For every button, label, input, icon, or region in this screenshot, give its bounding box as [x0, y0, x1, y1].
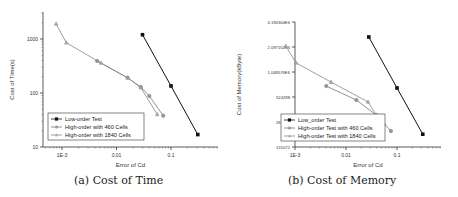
x-tick-label: 1E-3: [57, 152, 68, 158]
y-tick-label: 100: [30, 90, 39, 96]
series-triangle: [284, 44, 386, 125]
x-tick-label: 0.01: [112, 152, 122, 158]
legend-entry: Low_order Test: [298, 117, 337, 123]
x-axis-label: Error of Cd: [116, 162, 145, 168]
legend-entry: High-order with 460 Cells: [65, 124, 128, 130]
series-circle: [95, 59, 165, 117]
y-axis-label: Cost of Memory(kByte): [236, 54, 242, 115]
x-tick-label: 0.01: [341, 152, 351, 158]
caption-time: (a) Cost of Time: [74, 174, 163, 187]
y-tick-label: 131072: [276, 145, 291, 150]
legend: Low-order TestHigh-order with 460 CellsH…: [48, 113, 144, 140]
time-chart: 1010010001E-30.010.1Error of CdCost of T…: [0, 0, 229, 170]
x-tick-label: 1E-3: [290, 152, 301, 158]
y-tick-label: 524288: [276, 95, 291, 100]
x-axis-label: Error of Cd: [353, 162, 382, 168]
memory-chart: 1310722621445242881.048576E62.097152E64.…: [229, 0, 458, 170]
x-tick-label: 0.1: [394, 152, 401, 158]
caption-memory: (b) Cost of Memory: [288, 174, 396, 187]
legend-entry: High-order Test with 460 Cells: [298, 125, 373, 131]
y-axis-label: Cost of Time(s): [9, 59, 15, 100]
y-tick-label: 1.048576E6: [267, 70, 290, 75]
y-tick-label: 4.194304E6: [267, 20, 290, 25]
y-tick-label: 1000: [27, 36, 38, 42]
y-tick-label: 10: [32, 144, 38, 150]
legend-entry: Low-order Test: [65, 116, 102, 122]
legend-entry: High-order with 1840 Cells: [65, 132, 131, 138]
time-chart-panel: 1010010001E-30.010.1Error of CdCost of T…: [0, 0, 229, 170]
x-tick-label: 0.1: [168, 152, 175, 158]
series-square: [141, 33, 200, 136]
legend: Low_order TestHigh-order Test with 460 C…: [281, 114, 385, 141]
legend-entry: High-order Test with 1840 Cells: [298, 133, 376, 139]
memory-chart-panel: 1310722621445242881.048576E62.097152E64.…: [229, 0, 458, 170]
